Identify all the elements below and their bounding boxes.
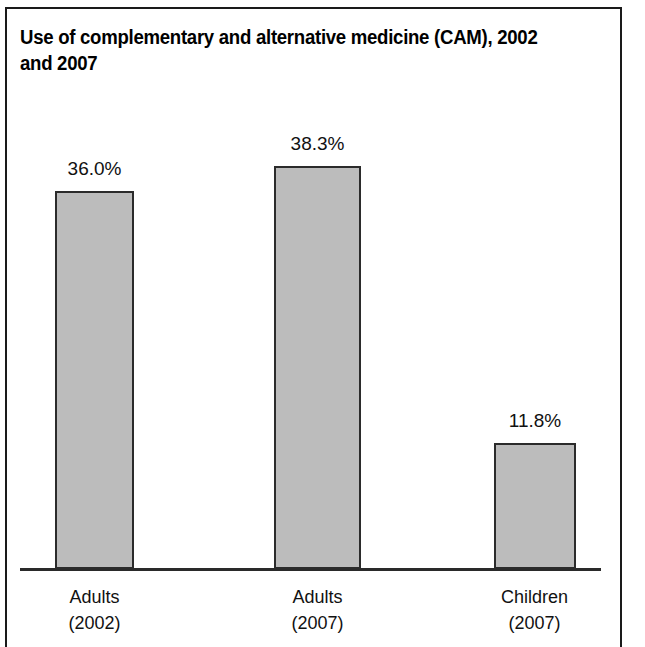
bar-adults-2007[interactable] xyxy=(274,166,361,569)
bar-value-adults-2007: 38.3% xyxy=(274,133,361,155)
category-label-children-2007: Children (2007) xyxy=(475,585,594,636)
bar-children-2007[interactable] xyxy=(494,443,576,569)
category-label-adults-2002: Adults (2002) xyxy=(35,585,154,636)
bar-value-adults-2002: 36.0% xyxy=(55,158,134,180)
bar-adults-2002[interactable] xyxy=(55,191,134,569)
bar-value-children-2007: 11.8% xyxy=(494,410,576,432)
category-label-adults-2007: Adults (2007) xyxy=(258,585,377,636)
